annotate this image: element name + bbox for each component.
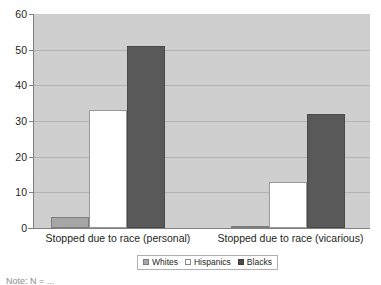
category-label-vicarious: Stopped due to race (vicarious) — [208, 233, 373, 245]
y-tick-label-40: 40 — [3, 80, 27, 91]
legend-item-whites: Whites — [143, 258, 178, 267]
y-tick-label-30: 30 — [3, 116, 27, 127]
bar-blacks-vicarious — [307, 114, 345, 228]
bar-chart-figure: 60 50 40 30 20 10 0 Stopped due to race … — [0, 0, 381, 285]
bar-hispanics-vicarious — [269, 182, 307, 228]
legend-item-hispanics: Hispanics — [185, 258, 231, 267]
chart-legend: Whites Hispanics Blacks — [137, 255, 278, 270]
legend-item-blacks: Blacks — [238, 258, 272, 267]
bar-blacks-personal — [127, 46, 165, 228]
gridline-50 — [33, 50, 370, 51]
y-tick-label-10: 10 — [3, 187, 27, 198]
figure-caption: Note: N = ... — [6, 276, 54, 285]
y-tick-label-60: 60 — [3, 9, 27, 20]
legend-label-whites: Whites — [152, 258, 178, 267]
legend-swatch-hispanics-icon — [185, 259, 191, 265]
y-tick-label-20: 20 — [3, 151, 27, 162]
y-axis-line — [33, 14, 34, 229]
legend-label-hispanics: Hispanics — [194, 258, 231, 267]
legend-swatch-whites-icon — [143, 259, 149, 265]
x-axis-line — [28, 228, 370, 229]
y-tick-label-0: 0 — [3, 223, 27, 234]
y-tick-label-50: 50 — [3, 44, 27, 55]
plot-area — [33, 14, 370, 228]
bar-whites-personal — [51, 217, 89, 228]
legend-label-blacks: Blacks — [247, 258, 272, 267]
legend-swatch-blacks-icon — [238, 259, 244, 265]
bar-hispanics-personal — [89, 110, 127, 228]
category-label-personal: Stopped due to race (personal) — [33, 233, 203, 245]
y-axis-labels: 60 50 40 30 20 10 0 — [0, 0, 27, 285]
gridline-40 — [33, 85, 370, 86]
